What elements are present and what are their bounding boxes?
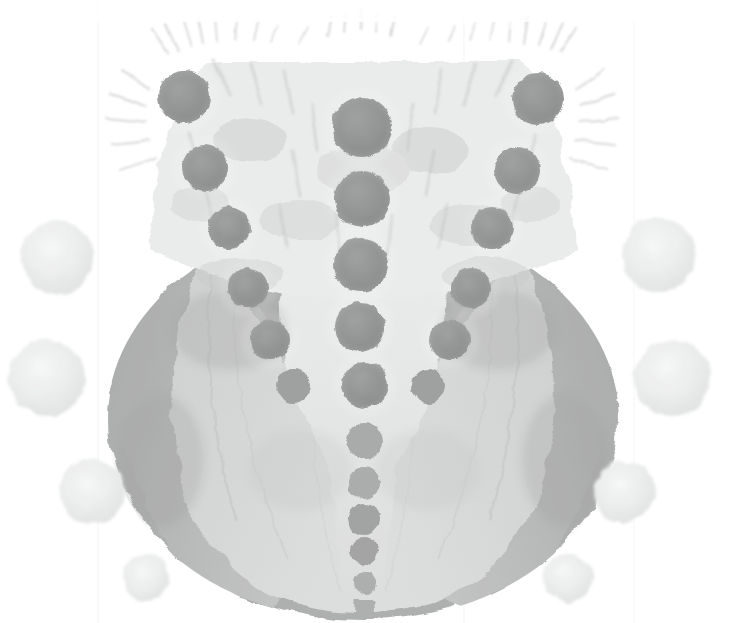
artwork-svg	[0, 0, 734, 623]
artwork-canvas: symmetrical moth-like organic form with …	[0, 0, 734, 623]
paper-grain	[0, 0, 734, 623]
